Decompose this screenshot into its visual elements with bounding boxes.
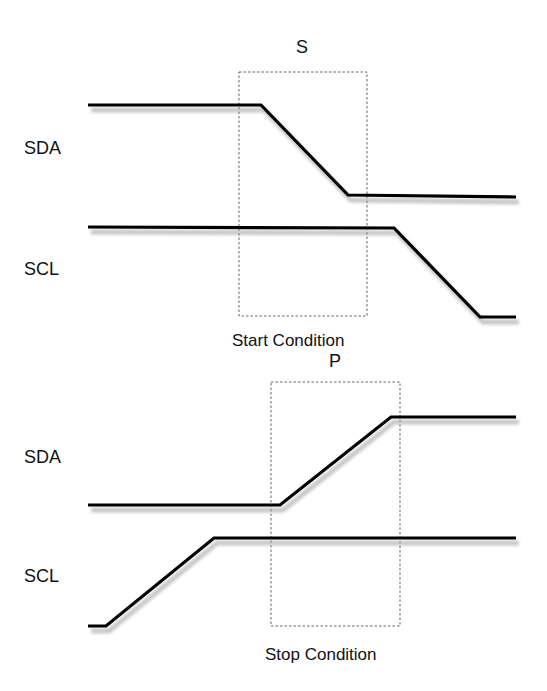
stop-sda-shadow: [91, 422, 519, 510]
stop-condition-section: P SDA SCL Stop Condition: [24, 351, 519, 664]
start-sda-label: SDA: [24, 138, 61, 158]
stop-scl-label: SCL: [24, 566, 59, 586]
stop-marker-p: P: [329, 351, 341, 371]
stop-condition-caption: Stop Condition: [265, 645, 377, 664]
start-condition-section: S SDA SCL Start Condition: [24, 37, 519, 350]
stop-sda-label: SDA: [24, 447, 61, 467]
i2c-timing-diagram: S SDA SCL Start Condition P SDA SCL Stop…: [0, 0, 547, 691]
start-marker-s: S: [296, 37, 308, 57]
start-scl-label: SCL: [24, 259, 59, 279]
start-condition-caption: Start Condition: [232, 331, 344, 350]
start-scl-shadow: [91, 232, 519, 322]
start-scl-waveform: [88, 227, 516, 317]
stop-scl-waveform: [88, 538, 516, 626]
start-sda-shadow: [91, 110, 519, 202]
